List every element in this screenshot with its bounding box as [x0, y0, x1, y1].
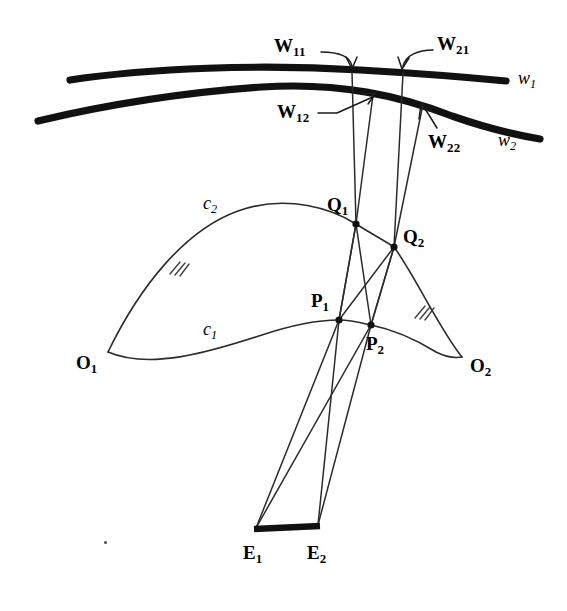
label-w21: W21	[437, 34, 469, 57]
label-p2: P2	[366, 334, 384, 357]
point-dot-q1	[352, 220, 359, 227]
leader-w12	[318, 96, 375, 113]
label-curve-c1: c1	[203, 320, 217, 341]
diagram-svg	[0, 0, 567, 611]
label-q2: Q2	[403, 227, 424, 250]
label-o2: O2	[470, 356, 491, 379]
scan-speck	[104, 541, 107, 544]
label-curve-c2: c2	[203, 194, 217, 215]
curve-c1	[108, 320, 462, 359]
ray-e2-p2-q2-w22	[318, 104, 423, 525]
figure-canvas: W11 W21 W12 W22 w1 w2 c2 c1 Q1 Q2 P1 P2 …	[0, 0, 567, 611]
label-curve-w2: w2	[498, 131, 516, 152]
label-curve-w1: w1	[518, 69, 536, 90]
point-dot-q2	[390, 243, 397, 250]
ray-e1-p1-q1-w11	[256, 72, 356, 528]
chord-p1-q2	[339, 247, 394, 320]
label-q1: Q1	[327, 195, 348, 218]
baseline-e1-e2	[254, 526, 320, 529]
label-e1: E1	[243, 543, 262, 566]
hatch-mark-left	[170, 262, 189, 276]
point-dot-p1	[335, 316, 342, 323]
chord-p2-q1	[356, 224, 371, 325]
label-o1: O1	[76, 353, 97, 376]
label-e2: E2	[307, 543, 326, 566]
label-w12: W12	[277, 102, 309, 125]
label-p1: P1	[311, 291, 329, 314]
ray-e1-p2-q2-w21	[256, 73, 403, 528]
label-w11: W11	[274, 36, 306, 59]
point-dot-p2	[367, 321, 374, 328]
curve-w1	[70, 67, 506, 81]
leader-w21	[403, 50, 433, 66]
label-w22: W22	[428, 132, 460, 155]
